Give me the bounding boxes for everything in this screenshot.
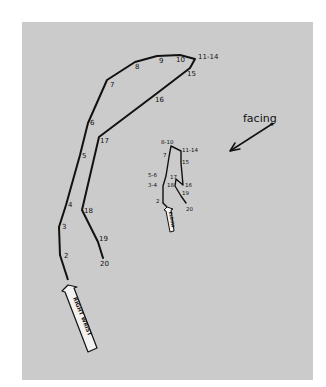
- point-label: 11-14: [198, 53, 219, 61]
- point-label: 2: [64, 252, 68, 260]
- point-label: 4: [68, 201, 73, 209]
- point-label: 8-10: [161, 139, 174, 145]
- point-label: 17: [170, 174, 177, 180]
- elbow-start-arrow: ELBOW: [164, 207, 176, 232]
- point-label: 16: [155, 96, 164, 104]
- point-label: 15: [187, 70, 196, 78]
- point-label: 3-4: [148, 182, 157, 188]
- point-label: 3: [62, 223, 66, 231]
- elbow-start-segment: [163, 203, 167, 207]
- point-label: 9: [159, 57, 163, 65]
- point-label: 7: [163, 152, 167, 158]
- facing-indicator: facing: [230, 112, 277, 151]
- point-label: 2: [156, 198, 160, 204]
- point-label: 18: [84, 207, 93, 215]
- point-label: 7: [110, 81, 114, 89]
- point-label: 16: [185, 182, 192, 188]
- point-label: 20: [100, 260, 109, 268]
- point-label: 15: [182, 159, 189, 165]
- point-label: 17: [100, 137, 109, 145]
- point-label: 5: [82, 152, 86, 160]
- point-label: 8: [135, 63, 139, 71]
- facing-arrow-shaft: [230, 124, 272, 151]
- point-label: 19: [99, 235, 108, 243]
- elbow-point-labels: 23-45-678-1011-14151617181920: [148, 139, 198, 212]
- point-label: 5-6: [148, 172, 157, 178]
- right-wrist-point-labels: 234567891011-14151617181920: [62, 53, 219, 268]
- motion-path-diagram: 234567891011-14151617181920 RIGHT WRIST …: [0, 0, 326, 387]
- point-label: 11-14: [182, 147, 198, 153]
- point-label: 6: [90, 119, 95, 127]
- point-label: 19: [182, 190, 189, 196]
- right-wrist-trajectory: [59, 55, 195, 258]
- point-label: 18: [167, 182, 174, 188]
- right-wrist-start-arrow: RIGHT WRIST: [62, 285, 97, 352]
- point-label: 10: [176, 56, 185, 64]
- facing-arrow-tail-dot: [270, 122, 273, 125]
- point-label: 20: [186, 206, 193, 212]
